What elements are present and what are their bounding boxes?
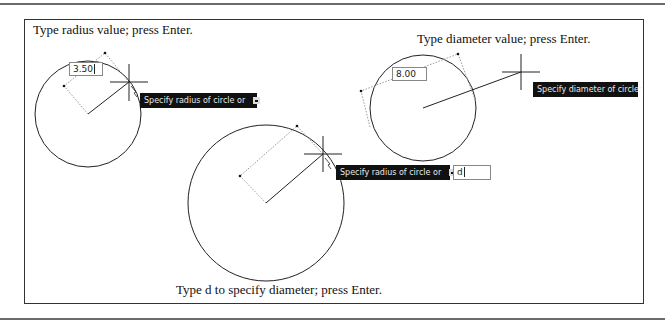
diameter-line — [423, 72, 521, 108]
d-option-input[interactable]: d — [453, 165, 491, 180]
radius-input[interactable]: 3.50 — [69, 62, 103, 76]
d-option-circle-group — [188, 125, 344, 281]
grip-point — [360, 90, 363, 93]
diameter-circle-group — [360, 53, 540, 161]
grip-point — [457, 53, 460, 56]
tooltip-text: Specify radius of circle or — [340, 168, 441, 177]
tooltip-text: Specify diameter of circle: — [537, 85, 642, 94]
dropdown-arrow-icon[interactable] — [253, 97, 260, 104]
grip-point — [63, 85, 66, 88]
text-caret — [94, 64, 95, 74]
radius-tooltip: Specify radius of circle or — [140, 93, 257, 108]
tooltip-text: Specify radius of circle or — [144, 96, 245, 105]
caption-d-option: Type d to specify diameter; press Enter. — [176, 282, 382, 298]
caption-diameter: Type diameter value; press Enter. — [417, 31, 590, 47]
diameter-tooltip: Specify diameter of circle: — [533, 82, 638, 97]
grip-point — [239, 175, 242, 178]
drawing-canvas — [0, 0, 665, 323]
diameter-input-value: 8.00 — [396, 69, 416, 79]
cursor-pointer-icon — [325, 158, 331, 169]
text-caret — [464, 167, 465, 177]
radius-line — [88, 82, 129, 114]
radius-input-value: 3.50 — [73, 64, 93, 74]
diameter-input[interactable]: 8.00 — [392, 67, 427, 81]
grip-point — [104, 52, 107, 55]
radius-tooltip-d-option: Specify radius of circle or — [336, 165, 450, 180]
dimension-helper — [361, 54, 476, 127]
radius-line — [266, 154, 323, 203]
caption-radius: Type radius value; press Enter. — [33, 22, 193, 38]
d-option-input-value: d — [457, 167, 463, 177]
grip-point — [296, 125, 299, 128]
